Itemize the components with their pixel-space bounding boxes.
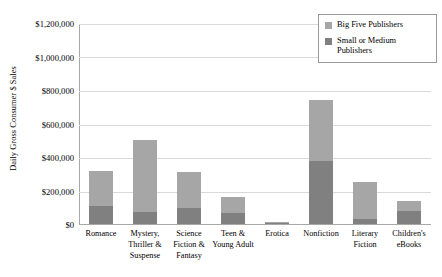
x-axis-line [79, 224, 431, 225]
x-axis-label: Science Fiction & Fantasy [167, 228, 211, 262]
bar-slot [255, 24, 299, 225]
bar-stack[interactable] [309, 100, 334, 225]
bar-segment-small-or-medium[interactable] [89, 206, 114, 225]
bar-segment-big-five[interactable] [89, 171, 114, 206]
y-axis-tick-label: $0 [4, 221, 74, 230]
bar-stack[interactable] [89, 171, 114, 225]
bar-segment-big-five[interactable] [353, 182, 378, 219]
bar-stack[interactable] [397, 201, 422, 225]
stacked-bar-chart: Daily Gross Consumer $ Sales $1,200,000$… [0, 0, 442, 277]
bar-segment-small-or-medium[interactable] [309, 161, 334, 225]
bar-slot [79, 24, 123, 225]
x-axis-label: Teen & Young Adult [211, 228, 255, 262]
y-axis-tick-label: $400,000 [4, 154, 74, 163]
bar-slot [211, 24, 255, 225]
legend-swatch-icon [325, 22, 332, 29]
y-axis-tick-label: $800,000 [4, 87, 74, 96]
bar-slot [123, 24, 167, 225]
bar-slot [167, 24, 211, 225]
legend-label: Big Five Publishers [337, 20, 403, 31]
chart-legend: Big Five PublishersSmall or Medium Publi… [318, 14, 437, 63]
x-axis-label: Literary Fiction [343, 228, 387, 262]
y-axis-tick-label: $600,000 [4, 120, 74, 129]
legend-swatch-icon [325, 38, 332, 45]
bar-stack[interactable] [177, 172, 202, 225]
bar-stack[interactable] [353, 182, 378, 225]
bar-segment-big-five[interactable] [309, 100, 334, 161]
bar-segment-big-five[interactable] [397, 201, 422, 211]
y-axis-tick-label: $1,000,000 [4, 53, 74, 62]
y-axis-tick-label: $1,200,000 [4, 20, 74, 29]
x-axis-category-labels: RomanceMystery, Thriller & SuspenseScien… [79, 228, 431, 262]
x-axis-label: Mystery, Thriller & Suspense [123, 228, 167, 262]
x-axis-label: Children's eBooks [387, 228, 431, 262]
y-axis-tick-labels: $1,200,000$1,000,000$800,000$600,000$400… [0, 24, 74, 225]
legend-label: Small or Medium Publishers [337, 36, 429, 57]
bar-stack[interactable] [221, 197, 246, 225]
bar-segment-big-five[interactable] [177, 172, 202, 208]
legend-entry[interactable]: Small or Medium Publishers [325, 36, 429, 57]
y-axis-tick-label: $200,000 [4, 187, 74, 196]
bar-segment-small-or-medium[interactable] [177, 208, 202, 225]
x-axis-label: Romance [79, 228, 123, 262]
bar-stack[interactable] [133, 140, 158, 225]
x-axis-label: Erotica [255, 228, 299, 262]
bar-segment-big-five[interactable] [133, 140, 158, 211]
x-axis-label: Nonfiction [299, 228, 343, 262]
bar-segment-small-or-medium[interactable] [133, 212, 158, 225]
legend-entry[interactable]: Big Five Publishers [325, 20, 429, 31]
bar-segment-small-or-medium[interactable] [397, 211, 422, 225]
bar-segment-big-five[interactable] [221, 197, 246, 213]
